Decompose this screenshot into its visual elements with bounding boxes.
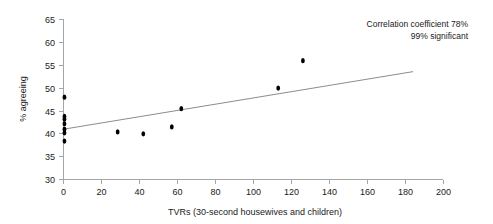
x-tick-label-20: 20 — [96, 187, 106, 197]
x-tick-label-100: 100 — [246, 187, 261, 197]
y-tick-label-45: 45 — [45, 107, 55, 117]
y-tick-label-55: 55 — [45, 61, 55, 71]
data-point — [63, 121, 67, 126]
data-point — [170, 124, 174, 129]
data-point — [179, 106, 183, 111]
y-tick-label-60: 60 — [45, 38, 55, 48]
data-point — [276, 85, 280, 90]
y-tick-label-40: 40 — [45, 129, 55, 139]
x-tick-label-0: 0 — [61, 187, 66, 197]
y-tick-label-50: 50 — [45, 84, 55, 94]
data-point — [63, 139, 67, 144]
x-tick-label-120: 120 — [284, 187, 299, 197]
y-axis-ticks — [59, 20, 64, 180]
data-point — [63, 130, 67, 135]
x-tick-label-60: 60 — [172, 187, 182, 197]
y-tick-label-35: 35 — [45, 152, 55, 162]
data-point — [63, 117, 67, 122]
annotation-correlation: Correlation coefficient 78% — [367, 19, 469, 29]
x-tick-label-40: 40 — [134, 187, 144, 197]
scatter-chart: 65 60 55 50 45 40 35 30 0 20 40 60 80 10… — [0, 0, 493, 224]
x-tick-label-80: 80 — [210, 187, 220, 197]
x-axis-title: TVRs (30-second housewives and children) — [168, 207, 342, 217]
x-tick-label-140: 140 — [322, 187, 337, 197]
x-axis-ticks — [64, 180, 444, 185]
chart-canvas: 65 60 55 50 45 40 35 30 0 20 40 60 80 10… — [0, 0, 493, 224]
y-axis-title: % agreeing — [18, 76, 28, 122]
trend-line — [64, 72, 414, 130]
data-point — [116, 129, 120, 134]
data-points-group — [63, 58, 305, 144]
y-tick-label-65: 65 — [45, 15, 55, 25]
x-tick-label-200: 200 — [436, 187, 451, 197]
data-point — [63, 95, 67, 100]
annotation-significance: 99% significant — [411, 31, 469, 41]
data-point — [301, 58, 305, 63]
x-tick-label-160: 160 — [360, 187, 375, 197]
data-point — [141, 131, 145, 136]
x-tick-label-180: 180 — [398, 187, 413, 197]
y-tick-label-30: 30 — [45, 175, 55, 185]
